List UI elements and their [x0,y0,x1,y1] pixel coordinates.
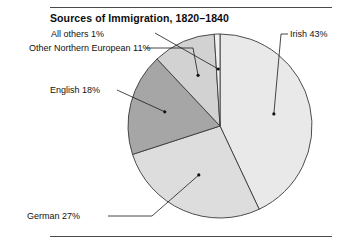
slice-label-german: German 27% [27,212,80,221]
slice-label-all-others: All others 1% [51,30,104,39]
leader-dot [163,110,166,113]
leader-dot [272,112,275,115]
leader-dot [196,74,199,77]
figure-panel: Sources of Immigration, 1820–1840 All ot… [0,0,346,251]
leader-dot [217,67,220,70]
slice-label-english: English 18% [50,86,100,95]
bottom-rule [50,236,332,237]
slice-label-other-northern-european: Other Northern European 11% [29,44,150,53]
leader-dot [197,173,200,176]
slice-label-irish: Irish 43% [290,30,328,39]
